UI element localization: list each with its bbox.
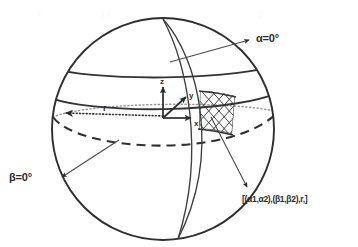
axis-y	[163, 97, 186, 118]
svg-text:r: r	[38, 6, 42, 18]
equator-dashed	[53, 112, 278, 146]
hatched-patch	[168, 64, 270, 170]
label-alpha-zero: α=0°	[256, 33, 279, 44]
leader-patch	[211, 117, 247, 187]
svg-text:2: 2	[258, 8, 264, 20]
leader-alpha-zero	[170, 40, 249, 62]
sphere-diagram-canvas: r 14 2 . .	[0, 0, 358, 247]
sphere-outline	[52, 18, 274, 240]
meridian-alpha1	[163, 19, 192, 239]
label-radius: r	[103, 104, 106, 113]
latitude-lower	[44, 88, 286, 109]
radius-dotted-line	[66, 113, 163, 116]
label-axis-z: z	[160, 78, 164, 86]
svg-text:.: .	[318, 98, 321, 110]
meridian-alpha2	[163, 19, 202, 239]
label-beta-zero: β=0°	[9, 172, 32, 183]
label-axis-y: y	[189, 92, 193, 100]
label-axis-x: x	[194, 120, 198, 128]
label-patch-parameters: [(α1,α2),(β1,β2),r,]	[242, 195, 307, 204]
leader-beta-zero	[62, 140, 119, 177]
latitude-upper	[45, 61, 285, 77]
svg-text:14: 14	[100, 8, 112, 20]
svg-text:.: .	[10, 98, 13, 110]
sphere-diagram-figure: r 14 2 . .	[0, 0, 358, 247]
